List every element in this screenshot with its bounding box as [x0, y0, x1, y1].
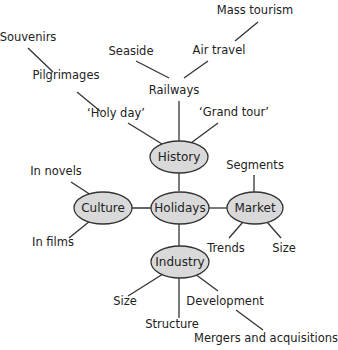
- label-in-novels: In novels: [30, 166, 82, 178]
- label-in-films: In films: [32, 237, 74, 249]
- label-structure: Structure: [145, 319, 199, 331]
- label-market-size: Size: [272, 243, 296, 255]
- node-history: History: [158, 151, 201, 163]
- node-culture: Culture: [81, 202, 125, 214]
- label-souvenirs: Souvenirs: [0, 32, 56, 44]
- label-seaside: Seaside: [109, 46, 154, 58]
- label-holy-day: ‘Holy day’: [87, 108, 145, 120]
- label-industry-size: Size: [113, 296, 137, 308]
- label-segments: Segments: [226, 160, 284, 172]
- label-mergers-acquisitions: Mergers and acquisitions: [194, 333, 338, 345]
- label-air-travel: Air travel: [193, 45, 246, 57]
- label-mass-tourism: Mass tourism: [217, 5, 294, 17]
- label-railways: Railways: [149, 85, 199, 97]
- label-trends: Trends: [207, 243, 244, 255]
- label-pilgrimages: Pilgrimages: [33, 70, 100, 82]
- label-development: Development: [186, 296, 263, 308]
- node-holidays: Holidays: [154, 202, 205, 214]
- label-grand-tour: ‘Grand tour’: [199, 107, 269, 119]
- node-market: Market: [234, 202, 275, 214]
- node-industry: Industry: [155, 256, 204, 268]
